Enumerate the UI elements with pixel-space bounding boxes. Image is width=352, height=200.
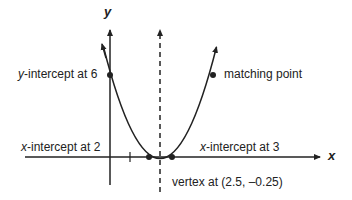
matching-point-label: matching point [224, 67, 302, 81]
x-intercept-left-label: x-intercept at 2 [21, 140, 100, 154]
x-axis-label: x [328, 148, 335, 163]
parabola-left-arrow [102, 44, 106, 58]
y-intercept-point [107, 72, 113, 78]
y-axis-label: y [104, 4, 111, 19]
x-intercept-right-text: -intercept at 3 [206, 140, 279, 154]
x-intercept-right-label: x-intercept at 3 [200, 140, 279, 154]
x-intercept-point-3 [169, 154, 175, 160]
matching-point [210, 72, 216, 78]
y-intercept-text: -intercept at 6 [24, 67, 97, 81]
parabola-figure [0, 0, 352, 200]
vertex-label: vertex at (2.5, –0.25) [172, 175, 283, 189]
x-intercept-left-text: -intercept at 2 [27, 140, 100, 154]
y-intercept-label: y-intercept at 6 [18, 67, 97, 81]
x-intercept-point-2 [146, 154, 152, 160]
